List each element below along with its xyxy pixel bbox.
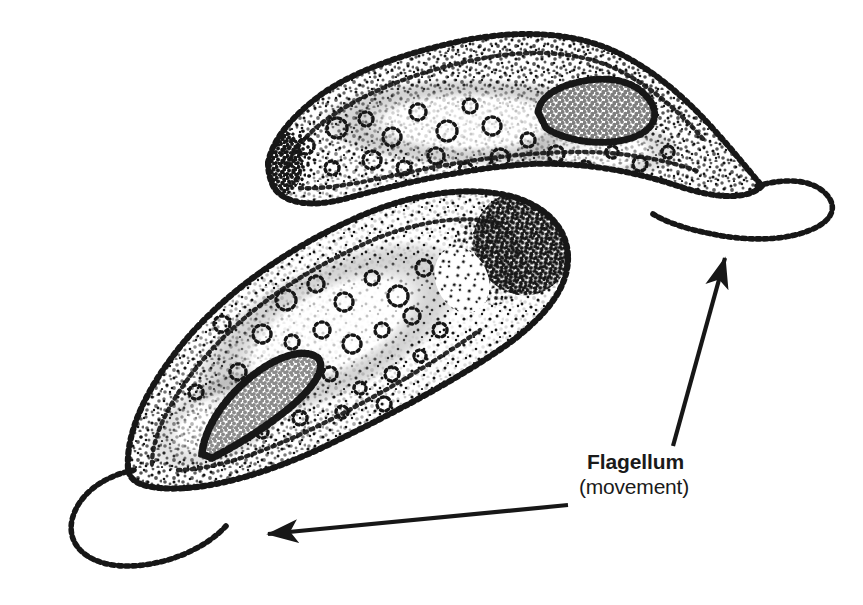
flagellum-label-title: Flagellum — [587, 451, 689, 472]
upper-protozoan-cell — [250, 20, 832, 239]
flagellum-label: Flagellum (movement) — [587, 451, 689, 497]
upper-motion-arrow — [673, 258, 725, 446]
protozoa-illustration — [0, 0, 863, 605]
flagellum-label-subtitle: (movement) — [579, 476, 689, 497]
lower-motion-arrow — [268, 505, 568, 534]
lower-protozoan-cell — [71, 177, 590, 566]
figure-canvas: Flagellum (movement) — [0, 0, 863, 605]
